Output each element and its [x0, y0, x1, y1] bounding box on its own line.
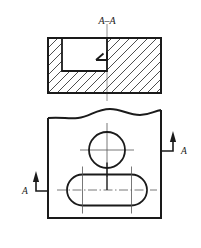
engineering-drawing-canvas: A–A: [0, 0, 201, 248]
section-arrow-right-group: A: [160, 131, 187, 156]
section-view-group: [0, 24, 201, 101]
section-hatching: [0, 38, 201, 93]
technical-drawing-svg: A–A: [0, 0, 201, 248]
section-cavity-outline: [62, 38, 107, 71]
section-arrow-left-label: A: [21, 186, 28, 196]
plan-outer-outline: [48, 109, 161, 218]
plan-view-group: [48, 109, 161, 218]
section-arrow-left-head-icon: [33, 171, 39, 182]
section-arrow-left-group: A: [21, 171, 49, 196]
section-arrow-right-head-icon: [170, 131, 176, 142]
section-arrow-right-label: A: [180, 146, 187, 156]
section-notch-detail: [96, 52, 107, 60]
